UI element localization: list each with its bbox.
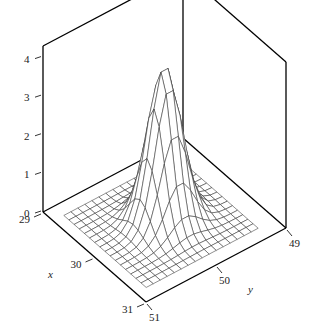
box-edge-top-left (43, 0, 183, 46)
z-tick (35, 57, 41, 59)
x-tick-label: 30 (71, 258, 83, 270)
y-tick (147, 304, 152, 310)
x-tick (86, 259, 93, 262)
z-tick (35, 95, 41, 97)
y-tick-label: 51 (149, 311, 160, 323)
box-edge-top-right (183, 0, 286, 62)
z-tick-label: 1 (24, 168, 30, 180)
x-tick-label: 31 (122, 303, 133, 315)
z-tick-label: 3 (24, 91, 30, 103)
y-tick-label: 49 (289, 237, 301, 249)
y-tick (217, 267, 222, 273)
y-axis-label: y (247, 283, 253, 295)
z-tick-label: 4 (24, 53, 30, 65)
x-tick-label: 29 (19, 213, 31, 225)
y-tick-label: 50 (219, 274, 231, 286)
z-axis: 01234 (24, 53, 41, 219)
x-tick (137, 304, 144, 307)
z-tick (35, 134, 41, 136)
x-tick (34, 214, 41, 217)
z-tick-label: 2 (24, 130, 30, 142)
z-tick (35, 211, 41, 213)
y-tick (287, 230, 292, 236)
x-axis-label: x (47, 268, 53, 280)
z-tick (35, 172, 41, 174)
surface-plot: 01234 293031 495051 x y (0, 0, 315, 328)
